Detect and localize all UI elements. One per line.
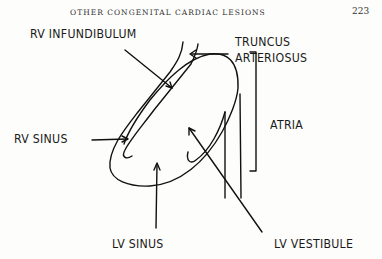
truncus-wall-left	[110, 42, 238, 186]
label-lv-sinus: LV SINUS	[112, 236, 164, 251]
rv-sinus-leader	[92, 139, 127, 140]
label-truncus-line1: TRUNCUS	[235, 34, 290, 49]
label-rv-sinus: RV SINUS	[14, 131, 68, 146]
book-page: OTHER CONGENITAL CARDIAC LESIONS 223 RV …	[0, 0, 382, 259]
lv-sinus-leader	[156, 164, 157, 228]
atria-bracket	[250, 52, 256, 171]
label-rv-infundibulum: RV INFUNDIBULUM	[30, 26, 137, 41]
label-atria: ATRIA	[270, 117, 303, 132]
label-truncus-line2: ARTERIOSUS	[235, 50, 307, 65]
truncus-wall-right	[124, 44, 198, 158]
rv-infundibulum-leader	[125, 50, 172, 88]
label-lv-vestibule: LV VESTIBULE	[274, 236, 353, 251]
septum-line	[240, 94, 241, 198]
